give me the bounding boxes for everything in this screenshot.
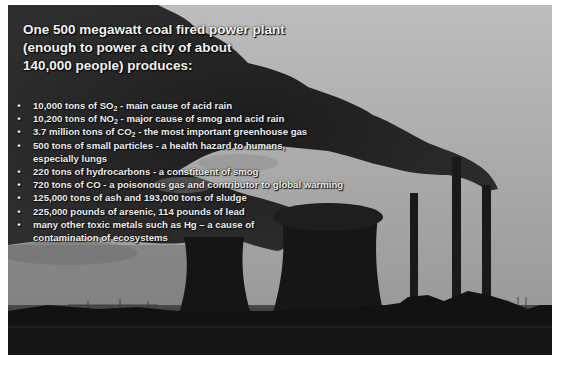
list-item: • 3.7 million tons of CO2 - the most imp…	[14, 125, 354, 138]
bullet-icon: •	[14, 191, 24, 204]
emissions-list: • 10,000 tons of SO2 - main cause of aci…	[14, 99, 354, 244]
bullet-icon: •	[14, 99, 24, 112]
title-line: (enough to power a city of about	[23, 39, 323, 57]
slide-text: One 500 megawatt coal fired power plant …	[8, 5, 552, 355]
list-item: • 225,000 pounds of arsenic, 114 pounds …	[14, 205, 354, 218]
bullet-icon: •	[14, 112, 24, 125]
list-item: • 500 tons of small particles - a health…	[14, 139, 333, 165]
title-line: One 500 megawatt coal fired power plant	[23, 21, 323, 39]
list-item: • 720 tons of CO - a poisonous gas and c…	[14, 178, 345, 191]
list-item: • many other toxic metals such as Hg – a…	[14, 218, 291, 244]
list-item: • 220 tons of hydrocarbons - a constitue…	[14, 165, 354, 178]
slide-title: One 500 megawatt coal fired power plant …	[23, 21, 323, 75]
bullet-icon: •	[14, 139, 24, 152]
bullet-icon: •	[14, 205, 24, 218]
slide: One 500 megawatt coal fired power plant …	[8, 5, 552, 355]
bullet-icon: •	[14, 218, 24, 231]
bullet-icon: •	[14, 165, 24, 178]
title-line: 140,000 people) produces:	[23, 57, 323, 75]
list-item: • 10,200 tons of NO2 - major cause of sm…	[14, 112, 354, 125]
bullet-icon: •	[14, 125, 24, 138]
list-item: • 10,000 tons of SO2 - main cause of aci…	[14, 99, 354, 112]
bullet-icon: •	[14, 178, 24, 191]
list-item: • 125,000 tons of ash and 193,000 tons o…	[14, 191, 354, 204]
